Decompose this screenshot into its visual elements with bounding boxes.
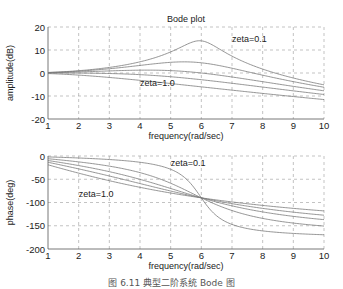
- amplitude-plot: 1234567891020100-10-20frequency(rad/sec)…: [5, 14, 329, 141]
- x-tick-label: 8: [260, 120, 265, 131]
- x-axis-label: frequency(rad/sec): [148, 261, 223, 271]
- x-tick-label: 2: [76, 120, 81, 131]
- phase-plot: 123456789100-50-100-150-200frequency(rad…: [5, 151, 329, 272]
- x-tick-label: 5: [168, 250, 173, 261]
- curve-annotation: zeta=0.1: [232, 34, 267, 44]
- y-tick-label: -10: [31, 91, 45, 102]
- y-tick-label: 20: [34, 22, 45, 33]
- x-tick-label: 1: [45, 250, 50, 261]
- x-tick-label: 9: [291, 120, 296, 131]
- x-tick-label: 1: [45, 120, 50, 131]
- curve-annotation: zeta=0.1: [171, 158, 206, 168]
- y-tick-label: -150: [26, 220, 45, 231]
- y-tick-label: -100: [26, 197, 45, 208]
- x-tick-label: 3: [107, 120, 112, 131]
- bode-plot-figure: 1234567891020100-10-20frequency(rad/sec)…: [0, 0, 343, 289]
- x-tick-label: 8: [260, 250, 265, 261]
- chart-title: Bode plot: [167, 14, 206, 24]
- y-tick-label: -50: [31, 174, 45, 185]
- y-tick-label: -20: [31, 114, 45, 125]
- x-tick-label: 6: [199, 120, 204, 131]
- x-tick-label: 10: [319, 120, 330, 131]
- x-tick-label: 7: [229, 250, 234, 261]
- x-tick-label: 4: [137, 120, 142, 131]
- x-axis-label: frequency(rad/sec): [148, 131, 223, 141]
- x-tick-label: 2: [76, 250, 81, 261]
- x-tick-label: 3: [107, 250, 112, 261]
- y-axis-label: amplitude(dB): [5, 45, 15, 101]
- y-tick-label: 0: [40, 151, 45, 162]
- x-tick-label: 6: [199, 250, 204, 261]
- y-tick-label: 0: [40, 68, 45, 79]
- x-tick-label: 10: [319, 250, 330, 261]
- x-tick-label: 4: [137, 250, 142, 261]
- x-tick-label: 9: [291, 250, 296, 261]
- y-axis-label: phase(deg): [5, 180, 15, 226]
- figure-caption: 图 6.11 典型二阶系统 Bode 图: [0, 276, 343, 289]
- y-tick-label: -200: [26, 244, 45, 255]
- x-tick-label: 7: [229, 120, 234, 131]
- curve-annotation: zeta=1.0: [140, 78, 175, 88]
- x-tick-label: 5: [168, 120, 173, 131]
- y-tick-label: 10: [34, 45, 45, 56]
- curve-annotation: zeta=1.0: [79, 189, 114, 199]
